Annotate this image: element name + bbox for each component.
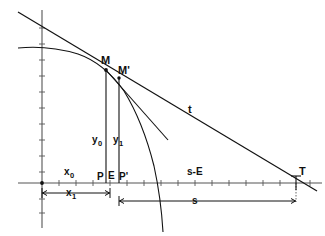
- label-x1: x 1: [66, 187, 76, 201]
- secant-line-from-m-prime: [106, 70, 168, 140]
- label-y0-subscript: 0: [98, 139, 102, 148]
- label-m-prime: M': [118, 64, 130, 76]
- s-dimension-line: [119, 196, 296, 206]
- label-y1: y 1: [113, 134, 123, 148]
- label-p: P: [97, 171, 104, 182]
- label-x1-subscript: 1: [72, 192, 76, 201]
- origin-dot: [40, 181, 44, 185]
- point-markers: [40, 68, 121, 185]
- axes-group: [18, 10, 322, 228]
- label-y0: y 0: [92, 134, 102, 148]
- label-p-prime: P': [119, 171, 128, 182]
- label-e: E: [108, 170, 115, 181]
- label-x0: x 0: [64, 166, 74, 180]
- figure-container: M M' t T y 0 y 1 x 0 x 1 P E P' s-E s: [0, 0, 325, 236]
- label-m: M: [101, 54, 110, 66]
- label-s-minus-e: s-E: [187, 166, 203, 177]
- m-point-dot: [104, 68, 108, 72]
- label-y1-subscript: 1: [119, 139, 123, 148]
- label-t-point: T: [299, 165, 306, 177]
- geometry-figure: M M' t T y 0 y 1 x 0 x 1 P E P' s-E s: [0, 0, 325, 236]
- label-s: s: [192, 195, 198, 206]
- m-prime-point-dot: [117, 76, 120, 79]
- tangent-line-t: [18, 12, 317, 191]
- label-x0-subscript: 0: [70, 171, 74, 180]
- label-tangent-t: t: [188, 103, 192, 115]
